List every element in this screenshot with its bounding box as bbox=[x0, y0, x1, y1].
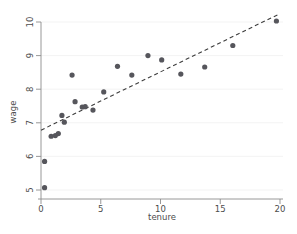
data-point bbox=[129, 72, 134, 77]
x-tick-label: 5 bbox=[98, 204, 103, 214]
y-tick-label: 6 bbox=[25, 154, 35, 159]
gridlines bbox=[41, 22, 283, 190]
data-points bbox=[42, 18, 279, 190]
data-point bbox=[178, 71, 183, 76]
data-point bbox=[69, 72, 74, 77]
fit-line-group bbox=[41, 14, 280, 131]
y-axis-title: wage bbox=[8, 101, 18, 124]
data-point bbox=[83, 104, 88, 109]
data-point bbox=[62, 120, 67, 125]
y-tick-label: 7 bbox=[25, 120, 35, 125]
y-tick-label: 5 bbox=[25, 187, 35, 192]
y-tick-label: 10 bbox=[25, 17, 35, 28]
y-axis: 5678910 bbox=[25, 17, 41, 199]
data-point bbox=[42, 159, 47, 164]
data-point bbox=[101, 89, 106, 94]
data-point bbox=[72, 99, 77, 104]
plot-canvas: 5678910 05101520 tenure wage bbox=[0, 0, 297, 234]
data-point bbox=[42, 185, 47, 190]
data-point bbox=[90, 107, 95, 112]
data-point bbox=[274, 18, 279, 23]
data-point bbox=[59, 113, 64, 118]
data-point bbox=[56, 131, 61, 136]
y-tick-label: 9 bbox=[25, 53, 35, 58]
x-tick-label: 0 bbox=[38, 204, 43, 214]
scatter-plot-figure: 5678910 05101520 tenure wage bbox=[0, 0, 297, 234]
data-point bbox=[145, 53, 150, 58]
data-point bbox=[159, 57, 164, 62]
regression-dashed-line bbox=[41, 14, 280, 131]
data-point bbox=[115, 64, 120, 69]
y-tick-label: 8 bbox=[25, 86, 35, 91]
x-axis-title: tenure bbox=[148, 212, 176, 222]
x-tick-label: 20 bbox=[275, 204, 286, 214]
x-tick-label: 15 bbox=[215, 204, 226, 214]
data-point bbox=[202, 64, 207, 69]
data-point bbox=[230, 43, 235, 48]
